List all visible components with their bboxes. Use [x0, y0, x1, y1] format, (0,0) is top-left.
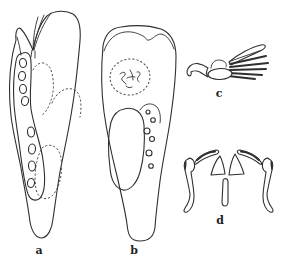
panel-d-right-cone [229, 154, 244, 175]
panel-a-outline [10, 11, 81, 238]
illustration-canvas [0, 0, 281, 266]
panel-c-drawing [187, 45, 268, 80]
panel-c-seta-brush [228, 51, 268, 79]
panel-c-basal-hook [187, 64, 208, 77]
panel-d-median-rod [222, 179, 228, 206]
panel-a-fold-lines [17, 13, 51, 58]
panel-a-label: a [35, 245, 42, 256]
panel-b-label: b [130, 245, 138, 256]
panel-b-drawing [102, 26, 176, 241]
panel-a-dotted-lines [33, 63, 81, 199]
panel-c-segment-bulb [208, 68, 233, 80]
panel-d-label: d [216, 215, 224, 226]
panel-b-pore-cluster [144, 110, 155, 168]
panel-c-dorsal-hump [211, 60, 226, 68]
panel-a-drawing [10, 11, 81, 238]
panel-d-drawing [184, 150, 273, 212]
panel-b-inner-oval [109, 108, 145, 190]
panel-b-anterior-fold [104, 32, 174, 51]
panel-c-label: c [216, 88, 223, 99]
panel-b-squiggle-marks [120, 70, 140, 88]
figure-plate: a b c d [0, 0, 281, 266]
panel-b-outline [102, 26, 176, 241]
panel-d-left-cone [211, 156, 225, 175]
